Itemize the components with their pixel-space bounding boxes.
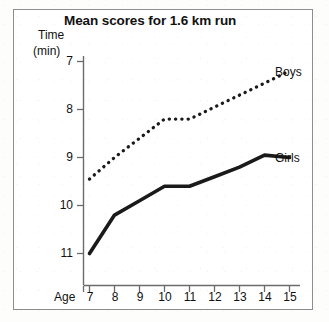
chart-figure: Mean scores for 1.6 km run Time (min) Ag… xyxy=(0,0,329,322)
legend-label-girls: Girls xyxy=(275,152,300,164)
legend-label-boys: Boys xyxy=(275,66,302,78)
y-axis-label: Time xyxy=(38,29,64,41)
x-tick-label-8: 8 xyxy=(105,291,125,303)
y-tick-label-7: 7 xyxy=(51,55,73,67)
y-tick-label-9: 9 xyxy=(51,151,73,163)
series-line-girls xyxy=(90,155,290,253)
x-tick-label-7: 7 xyxy=(80,291,100,303)
chart-title: Mean scores for 1.6 km run xyxy=(64,14,236,28)
x-tick-label-12: 12 xyxy=(205,291,225,303)
x-tick-label-14: 14 xyxy=(255,291,275,303)
y-tick-label-8: 8 xyxy=(51,103,73,115)
x-tick-label-13: 13 xyxy=(230,291,250,303)
x-tick-label-11: 11 xyxy=(180,291,200,303)
x-tick-label-15: 15 xyxy=(280,291,300,303)
x-tick-label-9: 9 xyxy=(130,291,150,303)
series-line-boys xyxy=(90,71,290,179)
y-tick-label-11: 11 xyxy=(51,247,73,259)
x-tick-label-10: 10 xyxy=(155,291,175,303)
y-tick-label-10: 10 xyxy=(51,199,73,211)
x-axis-label: Age xyxy=(54,291,75,303)
